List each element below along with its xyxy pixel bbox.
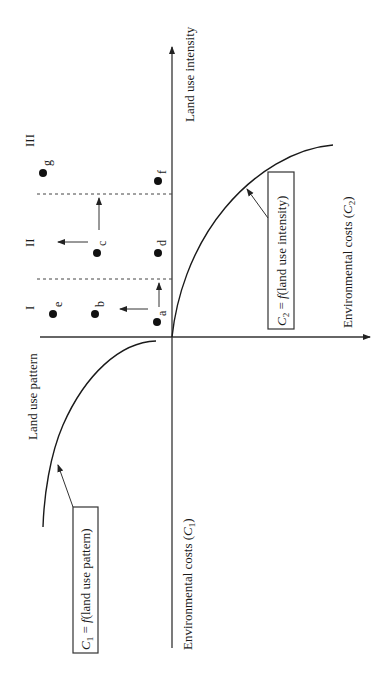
point-a [153,318,161,326]
point-c-label: c [95,241,109,246]
point-f-label: f [155,170,169,174]
point-b [91,310,99,318]
point-b-label: b [93,301,107,307]
c1-pointer-arrow [58,465,73,507]
c1-equation: C1 = f(land use pattern) [78,528,95,650]
point-g-label: g [40,160,54,166]
point-c [93,249,101,257]
point-e-label: e [51,302,65,307]
land-use-intensity-label: Land use intensity [182,26,197,122]
point-d-label: d [155,240,169,246]
point-f [154,177,162,185]
point-a-label: a [155,310,169,316]
region-i-label: I [22,306,37,310]
c2-equation: C2 = f(land use intensity) [274,196,291,326]
land-use-pattern-label: Land use pattern [25,353,40,440]
c1-curve [43,341,156,527]
environmental-costs-c1-label: Environmental costs (C1) [180,518,197,650]
point-d [154,249,162,257]
c2-pointer-arrow [247,189,268,218]
c2-curve [172,145,333,337]
region-iii-label: III [22,134,37,147]
point-g [39,169,47,177]
point-e [49,310,57,318]
environmental-costs-c2-label: Environmental costs (C2) [340,196,357,328]
region-ii-label: II [22,238,37,247]
diagram-canvas: C2 = f(land use intensity) C1 = f(land u… [0,0,387,689]
